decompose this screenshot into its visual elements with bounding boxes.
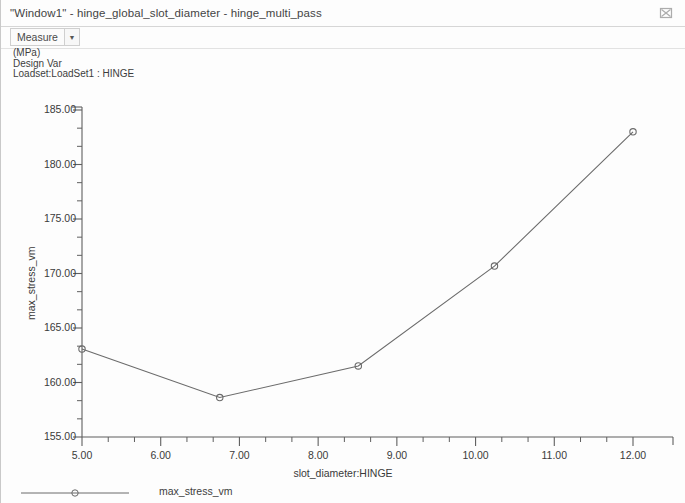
y-axis-title: max_stress_vm xyxy=(25,246,37,320)
x-tick-label: 9.00 xyxy=(367,449,427,461)
x-tick-label: 11.00 xyxy=(524,449,584,461)
x-tick-label: 6.00 xyxy=(131,449,191,461)
y-tick-label: 180.00 xyxy=(28,158,76,170)
x-tick-label: 8.00 xyxy=(288,449,348,461)
x-tick-label: 5.00 xyxy=(52,449,112,461)
y-tick-label: 185.00 xyxy=(28,103,76,115)
y-tick-label: 160.00 xyxy=(28,376,76,388)
y-tick-label: 155.00 xyxy=(28,430,76,442)
chart-text-layer: 155.00160.00165.00170.00175.00180.00185.… xyxy=(1,0,685,503)
y-tick-label: 175.00 xyxy=(28,212,76,224)
legend-label: max_stress_vm xyxy=(159,485,233,497)
chart-legend: max_stress_vm xyxy=(19,484,233,498)
x-tick-label: 10.00 xyxy=(446,449,506,461)
x-axis-title: slot_diameter:HINGE xyxy=(1,467,685,479)
x-tick-label: 12.00 xyxy=(603,449,663,461)
x-tick-label: 7.00 xyxy=(209,449,269,461)
legend-marker-icon xyxy=(19,485,131,497)
y-tick-label: 165.00 xyxy=(28,321,76,333)
plot-window: "Window1" - hinge_global_slot_diameter -… xyxy=(0,0,685,503)
